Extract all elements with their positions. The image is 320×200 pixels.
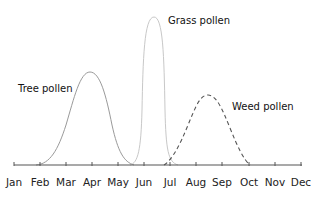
x-axis-labels: Jan Feb Mar Apr May Jun Jul Aug Sep Oct … bbox=[5, 176, 311, 188]
month-label-nov: Nov bbox=[265, 176, 286, 188]
grass-pollen-curve bbox=[130, 17, 178, 165]
month-label-dec: Dec bbox=[291, 176, 312, 188]
grass-pollen-label: Grass pollen bbox=[168, 15, 230, 26]
month-label-apr: Apr bbox=[83, 176, 102, 188]
month-label-jul: Jul bbox=[163, 176, 177, 188]
month-label-mar: Mar bbox=[56, 176, 76, 188]
month-label-may: May bbox=[107, 176, 129, 188]
month-label-oct: Oct bbox=[240, 176, 258, 188]
month-label-feb: Feb bbox=[31, 176, 50, 188]
month-label-jun: Jun bbox=[135, 176, 152, 188]
month-label-aug: Aug bbox=[186, 176, 207, 188]
weed-pollen-label: Weed pollen bbox=[232, 101, 294, 112]
month-label-jan: Jan bbox=[5, 176, 22, 188]
tree-pollen-label: Tree pollen bbox=[17, 83, 73, 94]
pollen-season-chart: Jan Feb Mar Apr May Jun Jul Aug Sep Oct … bbox=[0, 0, 320, 200]
month-label-sep: Sep bbox=[212, 176, 232, 188]
